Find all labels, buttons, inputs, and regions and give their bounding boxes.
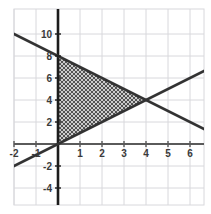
y-tick-label: 6: [46, 73, 52, 84]
y-tick-label: 4: [46, 95, 52, 106]
x-tick-label: -1: [32, 148, 41, 159]
graph-canvas: -2-1123456 108642-2-4: [0, 0, 211, 214]
x-tick-label: 3: [121, 148, 127, 159]
coordinate-graph: -2-1123456 108642-2-4: [0, 0, 211, 214]
x-tick-label: 2: [99, 148, 105, 159]
x-tick-label: -2: [10, 148, 19, 159]
y-tick-label: 2: [46, 117, 52, 128]
x-axis-tick-labels: -2-1123456: [10, 148, 194, 159]
y-tick-label: 8: [46, 51, 52, 62]
x-tick-label: 1: [77, 148, 83, 159]
x-tick-label: 4: [143, 148, 149, 159]
y-tick-label: 10: [41, 29, 53, 40]
y-tick-label: -4: [43, 183, 52, 194]
x-tick-label: 6: [187, 148, 193, 159]
y-tick-label: -2: [43, 161, 52, 172]
x-tick-label: 5: [165, 148, 171, 159]
